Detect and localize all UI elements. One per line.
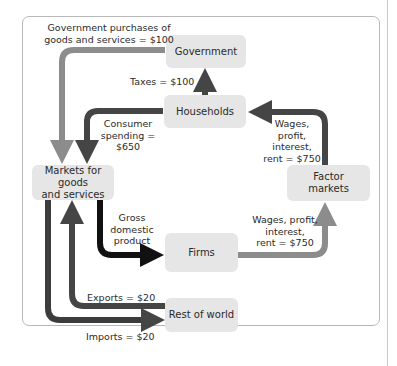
label-exports: Exports = $20 [87, 292, 155, 304]
node-firms: Firms [165, 233, 238, 272]
label-imports: Imports = $20 [86, 331, 155, 343]
label-wages-from-firms: Wages, profit, interest, rent = $750 [247, 214, 323, 249]
node-label: Government [175, 46, 237, 58]
node-label: Rest of world [169, 309, 234, 321]
node-label: Markets for goods and services [32, 165, 114, 201]
node-markets-goods-services: Markets for goods and services [32, 165, 114, 200]
node-label: Households [176, 106, 234, 118]
label-gdp: Gross domestic product [108, 212, 156, 247]
node-factor-markets: Factor markets [287, 165, 370, 201]
label-consumer-spending: Consumer spending = $650 [92, 118, 164, 153]
node-label: Firms [188, 247, 215, 259]
node-households: Households [164, 95, 246, 128]
node-rest-of-world: Rest of world [165, 298, 238, 332]
label-taxes: Taxes = $100 [130, 76, 194, 88]
label-gov-purchases: Government purchases of goods and servic… [44, 22, 174, 45]
node-label: Factor markets [308, 171, 349, 195]
node-government: Government [166, 35, 246, 68]
label-wages-to-households: Wages, profit, interest, rent = $750 [263, 118, 321, 164]
